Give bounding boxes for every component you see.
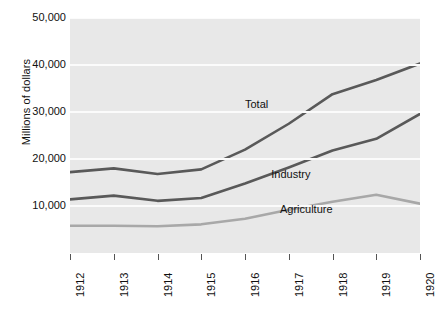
x-axis-tick-labels: 191219131914191519161917191819191920 [0, 0, 445, 310]
x-tick-label: 1919 [381, 273, 392, 297]
x-tick-label: 1920 [425, 273, 436, 297]
x-tick-label: 1917 [294, 273, 305, 297]
x-tick-label: 1913 [119, 273, 130, 297]
x-tick-label: 1915 [206, 273, 217, 297]
x-tick-label: 1914 [163, 273, 174, 297]
x-tick-mark [420, 254, 421, 260]
x-tick-mark [289, 254, 290, 260]
x-tick-mark [158, 254, 159, 260]
x-tick-mark [114, 254, 115, 260]
x-tick-label: 1912 [75, 273, 86, 297]
x-tick-mark [245, 254, 246, 260]
x-tick-label: 1916 [250, 273, 261, 297]
x-tick-mark [376, 254, 377, 260]
x-tick-mark [333, 254, 334, 260]
line-chart-figure: Millions of dollars 50,00040,00030,00020… [0, 0, 445, 310]
x-tick-mark [201, 254, 202, 260]
x-tick-label: 1918 [338, 273, 349, 297]
x-tick-mark [70, 254, 71, 260]
